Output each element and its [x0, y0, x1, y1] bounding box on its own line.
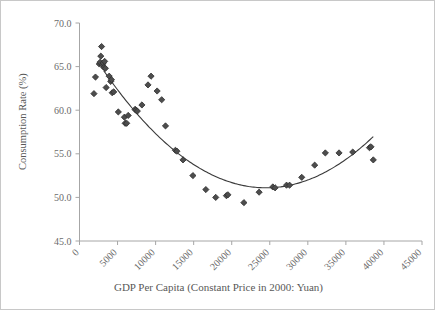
x-tick-label: 45000 [398, 247, 423, 272]
data-point-marker [148, 73, 154, 79]
data-point-marker [299, 174, 305, 180]
x-tick-label: 15000 [170, 247, 195, 272]
x-tick-label: 10000 [132, 247, 157, 272]
trend-curve [104, 71, 373, 188]
y-tick-labels: 45.050.055.060.065.070.0 [54, 18, 80, 247]
data-point-marker [336, 150, 342, 156]
data-point-marker [159, 97, 165, 103]
y-tick-label: 60.0 [54, 105, 72, 116]
data-point-marker [92, 74, 98, 80]
data-point-marker [256, 189, 262, 195]
data-point-marker [350, 149, 356, 155]
data-point-marker [145, 82, 151, 88]
data-point-marker [180, 157, 186, 163]
x-tick-label: 20000 [208, 247, 233, 272]
chart-figure: Consumption Rate (%) 45.050.055.060.065.… [0, 0, 435, 310]
x-tick-label: 30000 [284, 247, 309, 272]
x-tick-label: 25000 [246, 247, 271, 272]
data-points [91, 43, 377, 205]
data-point-marker [115, 109, 121, 115]
data-point-marker [98, 43, 104, 49]
data-point-marker [103, 84, 109, 90]
x-axis-title: GDP Per Capita (Constant Price in 2000: … [1, 281, 435, 293]
scatter-plot: 45.050.055.060.065.070.0 050001000015000… [1, 1, 435, 310]
data-point-marker [91, 91, 97, 97]
data-point-marker [139, 102, 145, 108]
axes [80, 23, 423, 241]
y-tick-label: 70.0 [54, 18, 72, 29]
x-tick-label: 5000 [97, 247, 119, 269]
x-tick-label: 40000 [360, 247, 385, 272]
y-tick-label: 55.0 [54, 148, 72, 159]
data-point-marker [322, 150, 328, 156]
data-point-marker [190, 173, 196, 179]
fit-curve-path [104, 71, 373, 188]
data-point-marker [370, 157, 376, 163]
y-tick-label: 45.0 [54, 236, 72, 247]
x-tick-label: 0 [70, 247, 81, 258]
data-point-marker [203, 186, 209, 192]
data-point-marker [213, 194, 219, 200]
data-point-marker [98, 53, 104, 59]
data-point-marker [241, 200, 247, 206]
data-point-marker [154, 88, 160, 94]
data-point-marker [312, 162, 318, 168]
x-tick-label: 35000 [322, 247, 347, 272]
y-tick-label: 65.0 [54, 61, 72, 72]
x-tick-labels: 0500010000150002000025000300003500040000… [70, 241, 424, 272]
data-point-marker [162, 123, 168, 129]
y-tick-label: 50.0 [54, 192, 72, 203]
